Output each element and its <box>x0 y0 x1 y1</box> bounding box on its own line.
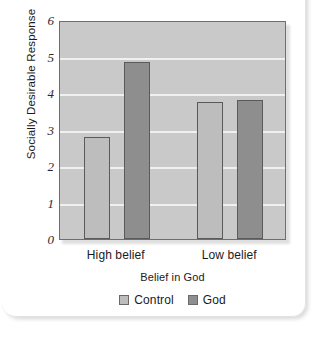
bar-god-low-belief <box>237 100 263 239</box>
y-axis-tick-label: 3 <box>38 123 54 139</box>
legend-item-control[interactable]: Control <box>119 293 173 307</box>
x-axis-title: Belief in God <box>59 271 286 283</box>
bar-control-low-belief <box>197 102 223 239</box>
y-axis-tick-label: 5 <box>38 50 54 66</box>
gridline <box>60 94 285 96</box>
y-axis-title: Socially Desirable Response <box>25 0 37 177</box>
bar-control-high-belief <box>84 137 110 239</box>
legend-label: God <box>203 293 226 307</box>
x-axis-tick-label: Low belief <box>169 248 289 262</box>
legend-label: Control <box>134 293 173 307</box>
gridline <box>60 58 285 60</box>
plot-area <box>59 21 286 240</box>
bar-chart: Socially Desirable Response 0123456 High… <box>0 0 312 340</box>
x-axis-tick-label: High belief <box>56 248 176 262</box>
y-axis-tick-label: 1 <box>38 196 54 212</box>
y-axis-tick-label: 2 <box>38 159 54 175</box>
y-axis-tick-label: 4 <box>38 86 54 102</box>
figure-card: Socially Desirable Response 0123456 High… <box>0 0 312 340</box>
chart-legend: ControlGod <box>59 293 286 307</box>
y-axis-tick-label: 6 <box>38 13 54 29</box>
y-axis-tick-label: 0 <box>38 232 54 248</box>
bar-god-high-belief <box>124 62 150 239</box>
legend-swatch-icon <box>188 295 198 305</box>
legend-swatch-icon <box>119 295 129 305</box>
legend-item-god[interactable]: God <box>188 293 226 307</box>
